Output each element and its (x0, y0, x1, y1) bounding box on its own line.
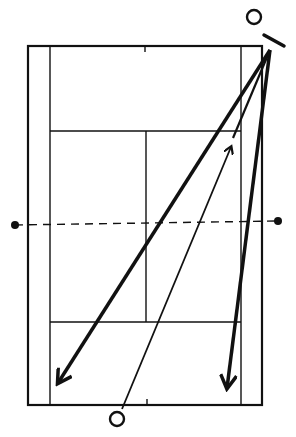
shot-crosscourt-arrow (58, 50, 270, 383)
player-top-icon (247, 10, 261, 24)
court-outline (28, 46, 262, 405)
racket-icon (264, 35, 284, 46)
shot-return-arrow (122, 147, 231, 409)
player-bottom-icon (110, 412, 124, 426)
net-post-left (11, 221, 19, 229)
net-post-right (274, 217, 282, 225)
tennis-court-diagram (0, 0, 296, 437)
